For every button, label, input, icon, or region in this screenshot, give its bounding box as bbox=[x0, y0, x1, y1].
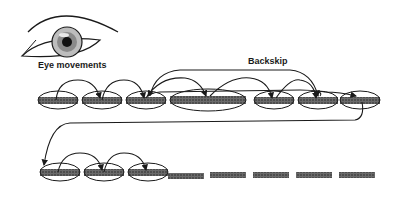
text-line-2 bbox=[40, 163, 375, 181]
eye-icon bbox=[22, 16, 118, 57]
reading-diagram bbox=[0, 0, 397, 210]
backskip-label: Backskip bbox=[248, 56, 288, 66]
saccade-arrows bbox=[44, 70, 363, 165]
eye-movements-label: Eye movements bbox=[38, 60, 107, 70]
